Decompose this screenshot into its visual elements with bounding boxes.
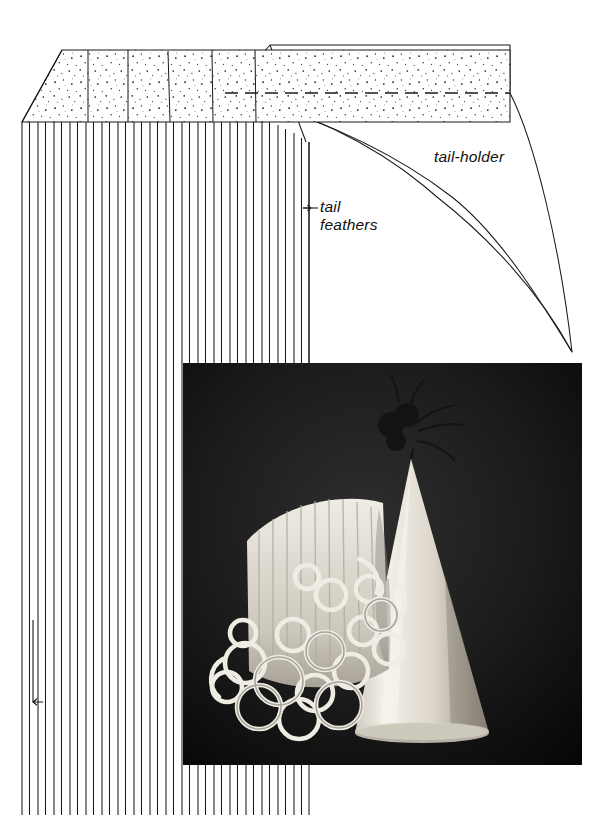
pattern-sheet-page: tail-holder tailfeathers [0, 0, 608, 815]
party-hat-photo [183, 363, 582, 765]
stipple-band [22, 50, 510, 122]
photo-grain [183, 363, 582, 765]
label-tail-feathers-line1: tail [320, 198, 341, 215]
label-tail-holder: tail-holder [434, 148, 504, 166]
party-hat-photo-artwork [183, 363, 582, 765]
label-tail-feathers: tailfeathers [320, 198, 378, 235]
label-tail-feathers-line2: feathers [320, 216, 378, 233]
